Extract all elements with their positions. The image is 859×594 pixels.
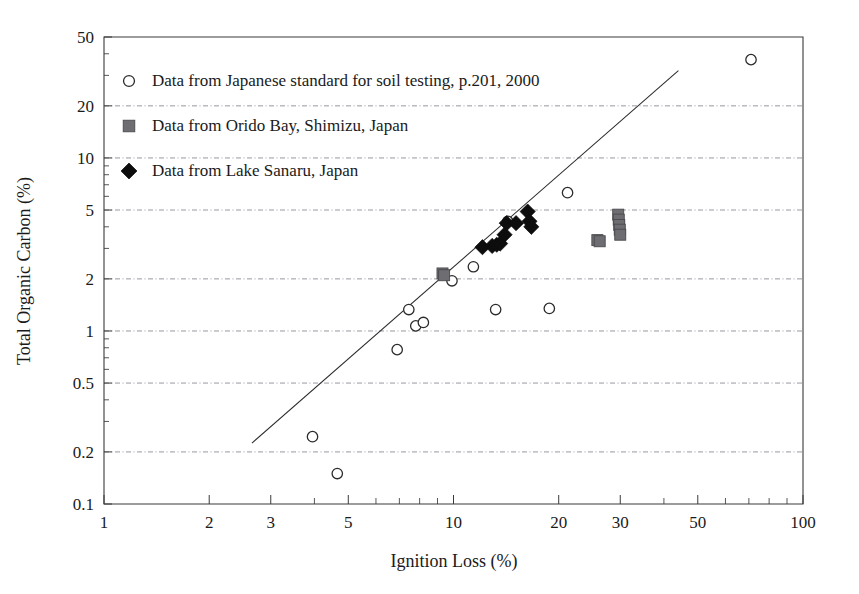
data-point-open-circle — [544, 303, 554, 313]
data-point-open-circle — [468, 262, 478, 272]
legend: Data from Japanese standard for soil tes… — [121, 71, 540, 180]
legend-item-1: Data from Orido Bay, Shimizu, Japan — [123, 116, 408, 135]
y-axis-ticklabels: 0.10.20.5125102050 — [73, 28, 94, 514]
y-axis-ticks — [104, 37, 112, 504]
data-point-open-circle — [307, 431, 317, 441]
legend-item-2: Data from Lake Sanaru, Japan — [121, 161, 359, 180]
data-point-filled-square — [123, 120, 135, 132]
x-axis-ticks — [104, 495, 803, 504]
x-ticklabel: 1 — [100, 513, 109, 532]
x-ticklabel: 50 — [689, 513, 706, 532]
legend-label: Data from Japanese standard for soil tes… — [152, 71, 540, 90]
x-axis-title: Ignition Loss (%) — [391, 551, 518, 572]
data-point-open-circle — [562, 187, 572, 197]
x-ticklabel: 20 — [550, 513, 567, 532]
figure-container: 123510203050100 0.10.20.5125102050 Data … — [0, 0, 859, 594]
x-ticklabel: 3 — [267, 513, 276, 532]
y-ticklabel: 50 — [77, 28, 94, 47]
y-ticklabel: 10 — [77, 149, 94, 168]
data-point-filled-square — [594, 236, 605, 247]
data-point-open-circle — [332, 468, 342, 478]
y-ticklabel: 0.5 — [73, 374, 94, 393]
data-point-open-circle — [418, 317, 428, 327]
y-ticklabel: 2 — [86, 270, 95, 289]
y-ticklabel: 20 — [77, 97, 94, 116]
data-point-open-circle — [124, 76, 135, 87]
data-point-open-circle — [404, 304, 414, 314]
data-point-open-circle — [392, 344, 402, 354]
x-ticklabel: 2 — [205, 513, 214, 532]
series-2 — [475, 204, 539, 255]
scatter-chart: 123510203050100 0.10.20.5125102050 Data … — [0, 0, 859, 594]
y-ticklabel: 0.1 — [73, 495, 94, 514]
x-ticklabel: 100 — [790, 513, 816, 532]
data-point-filled-square — [615, 229, 626, 240]
legend-label: Data from Orido Bay, Shimizu, Japan — [152, 116, 409, 135]
x-ticklabel: 30 — [612, 513, 629, 532]
data-point-open-circle — [746, 54, 756, 64]
legend-item-0: Data from Japanese standard for soil tes… — [124, 71, 540, 90]
axis-frame — [104, 37, 803, 504]
y-ticklabel: 5 — [86, 201, 95, 220]
y-ticklabel: 0.2 — [73, 443, 94, 462]
data-point-open-circle — [490, 304, 500, 314]
legend-label: Data from Lake Sanaru, Japan — [152, 161, 359, 180]
x-axis-ticklabels: 123510203050100 — [100, 513, 816, 532]
x-ticklabel: 5 — [344, 513, 353, 532]
y-ticklabel: 1 — [86, 322, 95, 341]
y-axis-title: Total Organic Carbon (%) — [14, 177, 35, 365]
data-point-filled-diamond — [121, 163, 137, 179]
x-ticklabel: 10 — [445, 513, 462, 532]
data-point-filled-square — [439, 270, 450, 281]
